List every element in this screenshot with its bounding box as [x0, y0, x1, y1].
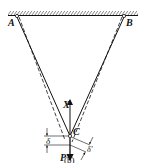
- label-A: A: [7, 17, 15, 28]
- label-C: C: [73, 126, 80, 137]
- label-delta-prime: δ': [87, 145, 93, 154]
- fixed-support-ceiling: [8, 11, 138, 16]
- diagram-canvas: A B C X P δ δ' (b): [0, 0, 143, 163]
- label-X: X: [62, 99, 70, 110]
- label-delta: δ: [46, 136, 51, 146]
- figure-caption: (b): [64, 155, 75, 163]
- label-B: B: [125, 17, 133, 28]
- bar-AC: [17, 17, 70, 140]
- truss-diagram: A B C X P δ δ' (b): [0, 0, 143, 163]
- pin-A-icon: [15, 14, 18, 17]
- bar-BC: [70, 17, 124, 142]
